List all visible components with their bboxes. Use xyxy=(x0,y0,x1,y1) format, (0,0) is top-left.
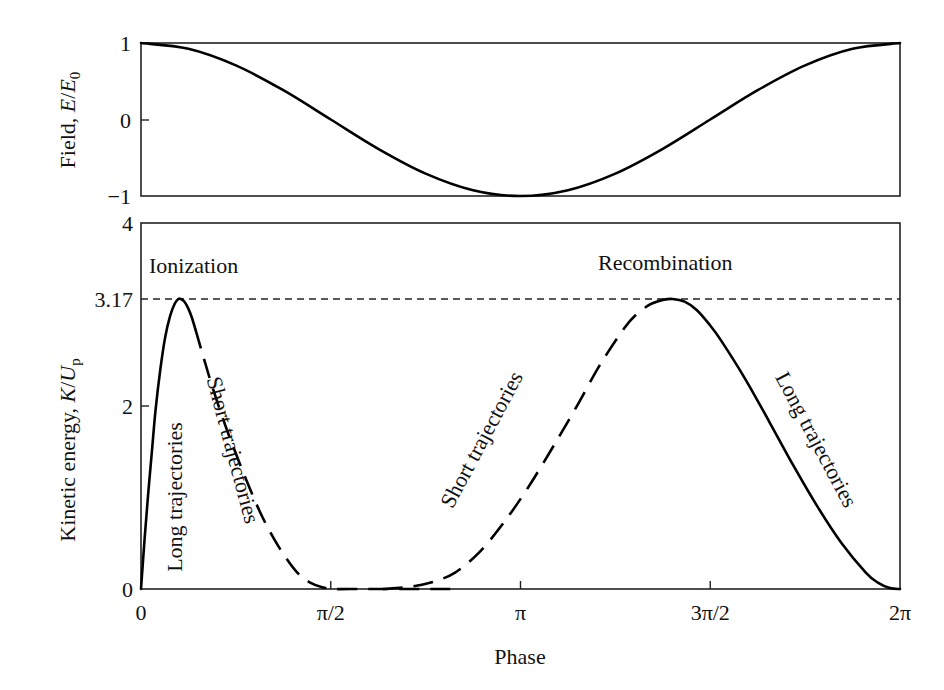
x-axis: 0 π/2 π 3π/2 2π Phase xyxy=(136,600,912,669)
annotation-long-trajectories-left: Long trajectories xyxy=(162,422,187,572)
field-curve xyxy=(141,43,900,196)
annotation-long-trajectories-right: Long trajectories xyxy=(770,368,862,512)
top-y-axis-title: Field, E/E0 xyxy=(55,72,83,169)
x-tick-label-pi: π xyxy=(515,600,526,625)
x-tick-label-2pi: 2π xyxy=(889,600,911,625)
bottom-y-tick-label-3.17: 3.17 xyxy=(95,287,134,312)
top-y-tick-label-0: 0 xyxy=(120,108,131,133)
x-tick-label-0: 0 xyxy=(136,600,147,625)
annotation-short-trajectories-right: Short trajectories xyxy=(435,367,528,512)
x-axis-title: Phase xyxy=(494,644,545,669)
annotation-short-trajectories-left: Short trajectories xyxy=(202,374,265,526)
annotation-recombination: Recombination xyxy=(598,250,732,275)
top-y-tick-label-1: 1 xyxy=(120,31,131,56)
annotation-ionization: Ionization xyxy=(149,253,238,278)
bottom-y-tick-label-0: 0 xyxy=(122,577,133,602)
top-panel: 1 0 −1 Field, E/E0 xyxy=(55,31,900,209)
figure: 1 0 −1 Field, E/E0 4 3.17 2 0 Kinetic en… xyxy=(0,0,944,690)
top-y-tick-label-minus1: −1 xyxy=(108,184,131,209)
x-tick-label-pi-half: π/2 xyxy=(317,600,345,625)
bottom-y-tick-label-4: 4 xyxy=(122,211,133,236)
short-trajectories-recombination-curve xyxy=(383,303,655,589)
bottom-y-axis-title: Kinetic energy, K/Up xyxy=(55,358,83,542)
top-panel-frame xyxy=(141,43,900,196)
long-trajectories-recombination-curve xyxy=(654,299,900,589)
bottom-y-tick-label-2: 2 xyxy=(122,394,133,419)
x-tick-label-3pi-half: 3π/2 xyxy=(691,600,730,625)
bottom-panel: 4 3.17 2 0 Kinetic energy, K/Up Ionizati… xyxy=(55,211,900,602)
